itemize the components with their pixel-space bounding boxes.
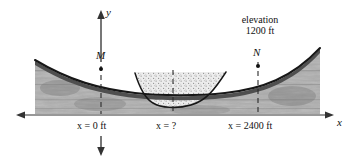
cross-section-figure: y x elevation 1200 ft M N x = 0 ft x = ?… <box>0 0 360 162</box>
y-axis-label: y <box>106 7 111 19</box>
x-axis-right-arrow <box>325 112 334 119</box>
x-axis-label: x <box>337 117 342 129</box>
point-marker-m <box>99 67 103 71</box>
elevation-callout-line1: elevation <box>214 15 306 26</box>
point-label-n: N <box>253 47 260 59</box>
elevation-callout: elevation 1200 ft <box>214 15 306 36</box>
x-axis-left-arrow <box>16 112 25 119</box>
down-arrow-head <box>97 147 105 156</box>
diagram-canvas <box>0 0 360 162</box>
elevation-callout-line2: 1200 ft <box>214 26 306 37</box>
tick-label-x0: x = 0 ft <box>77 121 106 132</box>
origin-down-arrow <box>97 136 105 156</box>
point-label-m: M <box>96 50 105 62</box>
tick-label-xunknown: x = ? <box>156 121 176 132</box>
y-axis-up-arrow <box>97 10 105 19</box>
tick-label-x2400: x = 2400 ft <box>228 121 272 132</box>
point-marker-n <box>256 64 260 68</box>
